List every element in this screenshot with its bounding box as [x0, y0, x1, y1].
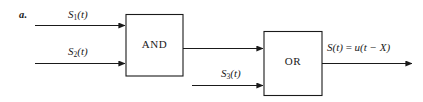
- signal-s1-name: S: [68, 8, 74, 20]
- or-gate-label: OR: [264, 55, 322, 67]
- signal-s2-arg: (t): [77, 45, 87, 57]
- signal-s1-arg: (t): [77, 8, 87, 20]
- signal-s1-index: 1: [74, 13, 78, 22]
- signal-s3-arg: (t): [230, 67, 240, 79]
- signal-s2-name: S: [68, 45, 74, 57]
- signal-s3-index: 3: [227, 72, 231, 81]
- signal-s1-label: S1(t): [68, 8, 88, 20]
- output-signal-label: S(t) = u(t − X): [327, 41, 390, 53]
- signal-s3-label: S3(t): [221, 67, 241, 79]
- output-expr-arg: (t − X): [360, 41, 390, 53]
- signal-s2-index: 2: [74, 50, 78, 59]
- and-gate-label: AND: [126, 38, 183, 50]
- item-letter: a.: [19, 9, 27, 20]
- signal-s3-name: S: [221, 67, 227, 79]
- signal-s2-label: S2(t): [68, 45, 88, 57]
- logic-block-diagram-figure: a. S1(t) S2(t) S3(t) S(t) = u(t − X) AND…: [0, 0, 423, 102]
- output-arg: (t): [333, 41, 343, 53]
